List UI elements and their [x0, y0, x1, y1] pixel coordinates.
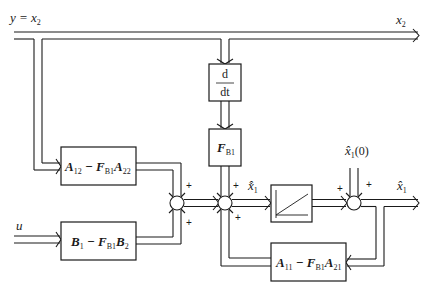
- summing-junction-2: [218, 196, 232, 210]
- sum2-sign-bottom: +: [235, 212, 241, 223]
- x1hat-output-label: x̂1: [396, 178, 407, 195]
- fb1-block: FB1: [209, 129, 241, 166]
- u-input-label: u: [16, 218, 23, 233]
- sum1-sign-top: +: [186, 180, 192, 191]
- summing-junction-1: [170, 196, 184, 210]
- y-branch-to-a12: [34, 39, 61, 174]
- fb1-to-sum2: [217, 166, 233, 197]
- integrator-block: [271, 185, 312, 222]
- observer-block-diagram: d dt FB1 A12 − FB1A22: [0, 0, 425, 292]
- derivative-block: d dt: [209, 64, 241, 101]
- initial-condition-label: x̂1(0): [344, 143, 369, 160]
- sum3-sign-left: +: [337, 183, 343, 194]
- x1hat-output: [361, 196, 419, 210]
- sum1-sign-bottom: +: [186, 217, 192, 228]
- a11-block: A11 − FB1A21: [271, 243, 346, 281]
- a12-block: A12 − FB1A22: [61, 147, 136, 185]
- ddt-to-fb1: [217, 101, 233, 129]
- sum2-sign-top: +: [233, 180, 239, 191]
- b1-to-sum1: [136, 209, 185, 244]
- a11-to-sum2: [217, 209, 271, 266]
- integrator-to-sum3: [312, 196, 347, 210]
- u-input: [14, 232, 61, 247]
- x1hat-dot-label: x̂̇1: [247, 178, 258, 195]
- b1-label: B1 − FB1B2: [70, 234, 129, 251]
- summing-junction-3: [347, 196, 361, 210]
- derivative-num: d: [222, 67, 228, 81]
- derivative-den: dt: [220, 85, 230, 99]
- x1hat-feedback: [346, 207, 384, 271]
- a12-to-sum1: [136, 163, 185, 197]
- y-equals-x2-label: y = x2: [8, 10, 41, 27]
- b1-block: B1 − FB1B2: [61, 222, 136, 260]
- sum2-to-integrator: [232, 196, 271, 210]
- y-branch-to-ddt: [217, 39, 233, 64]
- initial-condition-input: [346, 168, 362, 197]
- y-x2-bus: [14, 29, 419, 42]
- sum3-sign-top: +: [366, 179, 372, 190]
- sum1-to-sum2: [184, 196, 219, 210]
- x2-output-label: x2: [395, 12, 406, 29]
